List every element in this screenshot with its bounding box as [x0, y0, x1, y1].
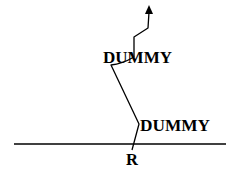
tree-diagram: DUMMY DUMMY R — [0, 0, 237, 179]
arrowhead-icon — [145, 5, 153, 14]
root-label: R — [126, 150, 139, 169]
upper-node-label: DUMMY — [103, 48, 172, 67]
lower-node-label: DUMMY — [140, 116, 210, 135]
